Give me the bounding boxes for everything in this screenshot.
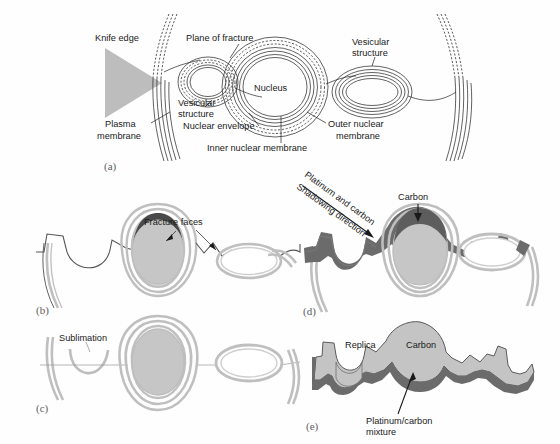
panel-tag-c: (c) xyxy=(36,402,49,415)
label-plasma-membrane-line1: Plasma xyxy=(105,119,137,129)
freeze-fracture-figure: Knife edge Plane of fracture Vesicular s… xyxy=(0,0,560,444)
vesicle-d xyxy=(459,234,525,270)
vesicle-c xyxy=(216,345,282,381)
nucleus-body-b xyxy=(132,220,184,284)
label-platinum-carbon-line2: mixture xyxy=(366,427,396,437)
label-vesicular-right-line2: structure xyxy=(352,48,388,58)
label-plasma-membrane-line2: membrane xyxy=(97,131,141,141)
label-vesicular-right-line1: Vesicular xyxy=(352,37,389,47)
label-nuclear-envelope: Nuclear envelope xyxy=(183,121,255,131)
panel-tag-e: (e) xyxy=(306,420,319,433)
panel-tag-d: (d) xyxy=(303,305,316,318)
label-plane-of-fracture: Plane of fracture xyxy=(186,33,253,43)
label-inner-nuclear-membrane: Inner nuclear membrane xyxy=(207,143,307,153)
nucleus-body-c xyxy=(132,329,184,395)
label-vesicular-left-line2: structure xyxy=(178,109,214,119)
label-fracture-faces: Fracture faces xyxy=(144,217,203,227)
label-knife-edge: Knife edge xyxy=(95,33,139,43)
label-sublimation: Sublimation xyxy=(59,333,107,343)
label-replica: Replica xyxy=(345,340,377,350)
label-platinum-carbon-line1: Platinum/carbon xyxy=(366,416,432,426)
panel-tag-b: (b) xyxy=(36,304,49,317)
vesicle-b xyxy=(217,244,281,278)
label-vesicular-left-line1: Vesicular xyxy=(178,98,215,108)
label-nucleus: Nucleus xyxy=(254,83,288,93)
label-outer-nuclear-line1: Outer nuclear xyxy=(328,119,384,129)
panel-tag-a: (a) xyxy=(104,160,117,173)
label-carbon-e: Carbon xyxy=(406,340,436,350)
label-outer-nuclear-line2: membrane xyxy=(336,131,380,141)
label-carbon-d: Carbon xyxy=(398,192,428,202)
